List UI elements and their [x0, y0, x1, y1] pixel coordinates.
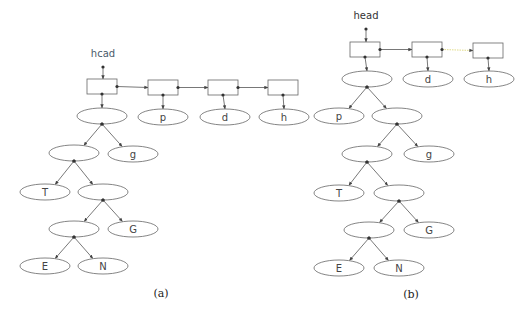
tree-branch-dot [101, 198, 104, 201]
tree-edge-arrow [367, 87, 387, 109]
tree-node-label: E [42, 261, 48, 272]
tree-node-label: N [395, 263, 402, 274]
list-node-child-dot [221, 93, 224, 96]
list-node-next-dot [378, 48, 381, 51]
tree-node-label: E [336, 263, 342, 274]
tree-edge-arrow [380, 201, 400, 223]
list-node-box [350, 42, 380, 57]
list-node-box [208, 80, 238, 95]
tree-node-label: h [486, 74, 492, 85]
tree-internal-node [344, 222, 394, 238]
tree-edge-arrow [367, 162, 388, 186]
tree-internal-node [78, 184, 128, 200]
tree-edge-arrow [349, 87, 367, 109]
tree-node-label: g [426, 149, 432, 160]
list-node-box [473, 43, 503, 58]
list-node-next-dot [440, 48, 443, 51]
list-node-child-dot [161, 93, 164, 96]
tree-edge-arrow [55, 237, 74, 259]
tree-node-label: T [41, 187, 49, 198]
tree-edge-arrow [397, 124, 418, 147]
list-node-next-dot [176, 86, 179, 89]
tree-internal-node [374, 185, 424, 201]
list-node-next-dot [115, 85, 118, 88]
tree-branch-dot [395, 122, 398, 125]
tree-branch-dot [365, 85, 368, 88]
list-to-tree-arrow [223, 95, 225, 109]
tree-node-label: p [336, 111, 342, 122]
list-node-next-dot [236, 86, 239, 89]
list-node-child-dot [363, 55, 366, 58]
list-to-tree-arrow [283, 95, 284, 109]
tree-node-label: N [99, 261, 106, 272]
list-node-box [87, 79, 117, 94]
tree-internal-node [342, 146, 392, 162]
tree-edge-arrow [378, 124, 398, 147]
tree-branch-dot [397, 199, 400, 202]
list-node-child-dot [100, 92, 103, 95]
tree-node-label: g [130, 149, 136, 160]
list-node-child-dot [281, 93, 284, 96]
tree-branch-dot [367, 236, 370, 239]
list-node-box [148, 80, 178, 95]
tree-edge-arrow [74, 161, 93, 185]
tree-internal-node [77, 108, 127, 124]
list-to-tree-arrow [427, 57, 428, 71]
tree-internal-node [49, 221, 99, 237]
tree-edge-arrow [84, 200, 103, 222]
diagram-canvas: hcadpdhgTGEN(a)headdhpgTGEN(b) [0, 0, 532, 317]
tree-edge-arrow [369, 238, 389, 261]
head-label: hcad [91, 48, 115, 59]
tree-edge-arrow [102, 124, 122, 147]
tree-branch-dot [100, 122, 103, 125]
tree-edge-arrow [55, 161, 74, 185]
tree-node-label: p [160, 112, 166, 123]
head-pointer-dot [101, 65, 104, 68]
list-node-child-dot [486, 56, 489, 59]
tree-edge-arrow [84, 124, 102, 146]
tree-branch-dot [365, 160, 368, 163]
list-next-arrow [117, 87, 148, 88]
tree-node-label: T [335, 188, 343, 199]
tree-edge-arrow [399, 201, 419, 223]
tree-node-label: d [425, 74, 431, 85]
panel-caption-b: (b) [403, 288, 419, 301]
list-node-box [268, 80, 298, 95]
list-node-child-dot [425, 55, 428, 58]
tree-internal-node [372, 108, 422, 124]
tree-edge-arrow [103, 200, 123, 222]
tree-node-label: h [281, 112, 287, 123]
list-to-tree-arrow [488, 58, 489, 71]
tree-branch-dot [72, 159, 75, 162]
head-label: head [354, 10, 379, 21]
head-pointer-dot [364, 27, 367, 30]
tree-node-label: G [129, 224, 137, 235]
tree-edge-arrow [74, 237, 93, 259]
tree-internal-node [342, 71, 392, 87]
tree-edge-arrow [350, 238, 370, 261]
tree-edge-arrow [349, 162, 367, 186]
tree-internal-node [49, 145, 99, 161]
tree-node-label: G [425, 225, 433, 236]
tree-branch-dot [72, 235, 75, 238]
list-next-arrow [442, 50, 473, 51]
list-node-box [412, 42, 442, 57]
list-to-tree-arrow [365, 57, 367, 71]
panel-caption-a: (a) [153, 287, 168, 300]
tree-node-label: d [222, 112, 228, 123]
